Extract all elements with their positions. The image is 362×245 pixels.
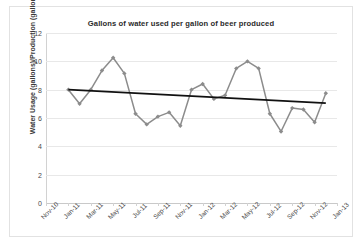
x-tick [270, 203, 271, 206]
x-tick [91, 203, 92, 206]
chart-frame: Gallons of water used per gallon of beer… [9, 6, 353, 237]
x-tick [337, 203, 338, 206]
x-tick [315, 203, 316, 206]
x-tick [158, 203, 159, 206]
y-axis-title: Water Usage (gallons)/Production (gallon… [29, 0, 36, 148]
x-tick [180, 203, 181, 206]
x-tick [136, 203, 137, 206]
x-tick [225, 203, 226, 206]
trendline [46, 33, 337, 203]
x-tick [247, 203, 248, 206]
x-tick [68, 203, 69, 206]
y-tick-label: 4 [38, 143, 42, 150]
plot-area: 024681012 Nov-10Jan-11Mar-11May-11Jul-11… [46, 33, 337, 203]
chart-title: Gallons of water used per gallon of beer… [10, 19, 352, 28]
y-tick-label: 12 [34, 30, 42, 37]
x-tick [203, 203, 204, 206]
y-tick-label: 6 [38, 115, 42, 122]
y-tick-label: 8 [38, 86, 42, 93]
y-tick-label: 10 [34, 58, 42, 65]
y-tick-label: 2 [38, 171, 42, 178]
x-tick [292, 203, 293, 206]
x-tick [113, 203, 114, 206]
x-tick [46, 203, 47, 206]
y-tick-label: 0 [38, 200, 42, 207]
x-tick-label: Jul-11 [130, 202, 147, 219]
x-tick-label: Jul-12 [264, 202, 282, 220]
trendline-segment [68, 90, 325, 103]
